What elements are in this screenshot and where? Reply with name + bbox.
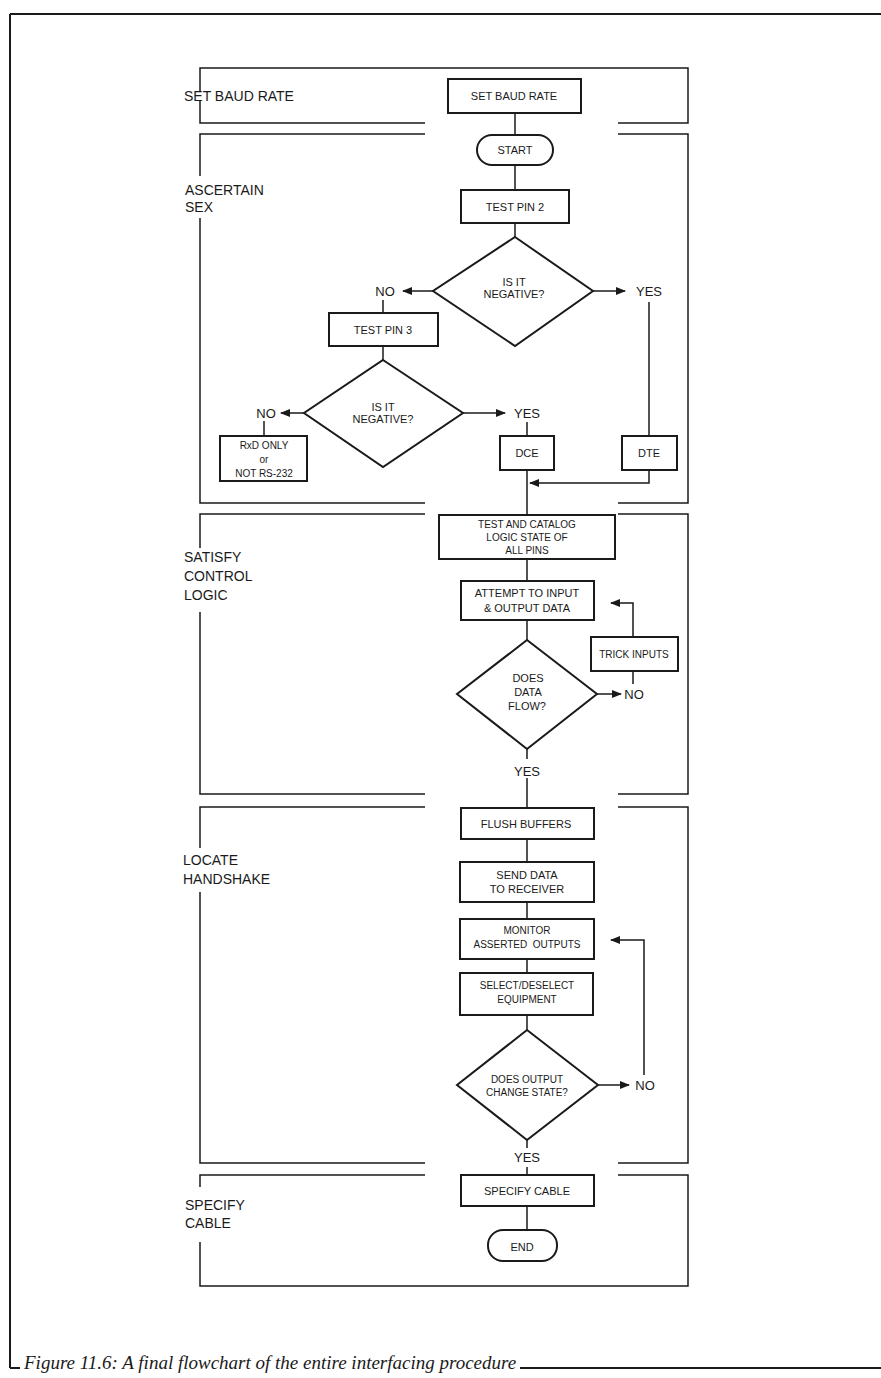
node-rxd-only: RxD ONLY or NOT RS-232 (220, 436, 307, 481)
flowchart-canvas: SET BAUD RATE ASCERTAIN SEX SATISFY CONT… (0, 0, 881, 1378)
branch-neg1-yes: YES (636, 284, 662, 299)
svg-text:SEND DATA: SEND DATA (496, 869, 558, 881)
node-dte: DTE (622, 436, 677, 470)
node-test-pin-2: TEST PIN 2 (461, 190, 569, 223)
node-data-flow: DOES DATA FLOW? (457, 640, 597, 749)
svg-text:MONITOR: MONITOR (503, 925, 550, 936)
svg-text:NEGATIVE?: NEGATIVE? (484, 288, 545, 300)
node-start: START (477, 135, 553, 165)
node-output-change: DOES OUTPUT CHANGE STATE? (457, 1030, 598, 1140)
svg-text:LOGIC STATE OF: LOGIC STATE OF (486, 532, 567, 543)
node-specify-cable: SPECIFY CABLE (461, 1175, 594, 1206)
node-end: END (488, 1230, 557, 1261)
svg-text:TRICK INPUTS: TRICK INPUTS (599, 649, 669, 660)
section-label-cable: SPECIFY CABLE (185, 1197, 249, 1231)
branch-neg1-no: NO (375, 284, 395, 299)
section-label-handshake: LOCATE HANDSHAKE (183, 852, 270, 887)
figure-caption: Figure 11.6: A final flowchart of the en… (20, 1352, 520, 1374)
section-frame-handshake (200, 807, 688, 1163)
svg-text:FLOW?: FLOW? (508, 700, 546, 712)
svg-text:TEST PIN 2: TEST PIN 2 (486, 201, 544, 213)
svg-text:IS IT: IS IT (371, 401, 395, 413)
section-label-sex: ASCERTAIN SEX (185, 182, 268, 215)
svg-text:SPECIFY CABLE: SPECIFY CABLE (484, 1185, 570, 1197)
svg-text:ALL PINS: ALL PINS (505, 545, 549, 556)
branch-flow-no: NO (624, 687, 644, 702)
node-attempt-io: ATTEMPT TO INPUT & OUTPUT DATA (461, 581, 594, 620)
node-set-baud-rate: SET BAUD RATE (448, 79, 581, 113)
branch-change-yes: YES (514, 1150, 540, 1165)
branch-neg2-no: NO (256, 406, 276, 421)
node-trick-inputs: TRICK INPUTS (591, 637, 678, 671)
node-flush-buffers: FLUSH BUFFERS (461, 808, 594, 839)
svg-text:SET BAUD RATE: SET BAUD RATE (471, 90, 557, 102)
svg-text:DOES OUTPUT: DOES OUTPUT (491, 1074, 563, 1085)
svg-text:DOES: DOES (512, 672, 543, 684)
svg-text:EQUIPMENT: EQUIPMENT (497, 994, 556, 1005)
svg-text:NEGATIVE?: NEGATIVE? (353, 413, 414, 425)
node-test-pin-3: TEST PIN 3 (329, 313, 438, 346)
svg-text:or: or (260, 454, 270, 465)
node-is-negative-1: IS IT NEGATIVE? (433, 237, 593, 346)
branch-change-no: NO (635, 1078, 655, 1093)
svg-text:END: END (510, 1241, 533, 1253)
svg-text:RxD ONLY: RxD ONLY (240, 440, 289, 451)
section-frame-cable (200, 1175, 688, 1286)
node-send-data: SEND DATA TO RECEIVER (460, 862, 594, 902)
svg-text:SELECT/DESELECT: SELECT/DESELECT (480, 980, 574, 991)
branch-neg2-yes: YES (514, 406, 540, 421)
node-dce: DCE (500, 436, 554, 470)
node-select-equipment: SELECT/DESELECT EQUIPMENT (460, 973, 593, 1015)
section-label-baud: SET BAUD RATE (184, 88, 294, 104)
svg-text:DCE: DCE (515, 447, 538, 459)
svg-text:IS IT: IS IT (502, 276, 526, 288)
svg-text:DTE: DTE (638, 447, 660, 459)
svg-text:CHANGE STATE?: CHANGE STATE? (486, 1087, 568, 1098)
node-monitor-outputs: MONITOR ASSERTED OUTPUTS (460, 919, 594, 959)
branch-flow-yes: YES (514, 764, 540, 779)
svg-text:DATA: DATA (514, 686, 542, 698)
svg-text:TEST AND CATALOG: TEST AND CATALOG (478, 519, 576, 530)
svg-text:ASSERTED OUTPUTS: ASSERTED OUTPUTS (473, 939, 580, 950)
node-test-catalog: TEST AND CATALOG LOGIC STATE OF ALL PINS (439, 515, 615, 559)
figure-frame (10, 14, 881, 1368)
node-is-negative-2: IS IT NEGATIVE? (304, 360, 463, 467)
svg-text:TEST PIN 3: TEST PIN 3 (354, 324, 412, 336)
svg-text:TO RECEIVER: TO RECEIVER (490, 883, 564, 895)
svg-text:ATTEMPT TO INPUT: ATTEMPT TO INPUT (475, 587, 580, 599)
svg-text:FLUSH BUFFERS: FLUSH BUFFERS (481, 818, 571, 830)
svg-text:NOT RS-232: NOT RS-232 (235, 468, 293, 479)
svg-text:& OUTPUT DATA: & OUTPUT DATA (484, 602, 571, 614)
section-label-control: SATISFY CONTROL LOGIC (184, 549, 256, 603)
svg-text:START: START (497, 144, 532, 156)
